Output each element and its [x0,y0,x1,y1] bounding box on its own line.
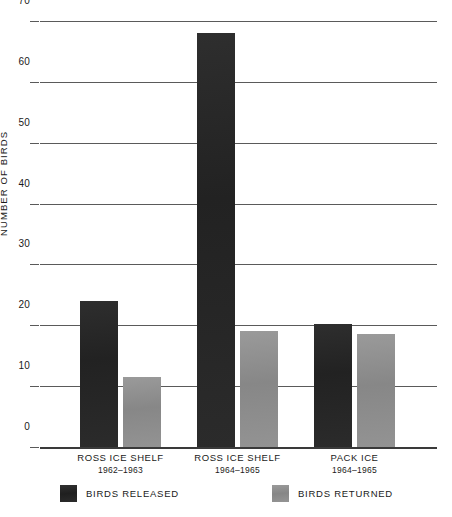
y-tick-label-10: 10 [18,360,30,371]
legend-swatch-released-icon [60,485,77,502]
bar-returned-ross-ice-shelf-1964-1965 [240,331,278,447]
y-axis-tick-labels: 70 60 50 40 30 20 10 0 [0,0,30,426]
x-category-years: 1964–1965 [177,464,298,476]
gridline-70 [40,21,437,22]
y-tick-mark-20 [30,325,39,326]
x-category-years: 1962–1963 [60,464,181,476]
legend-label-released: BIRDS RELEASED [86,488,179,499]
bar-chart: NUMBER OF BIRDS 70 60 50 40 30 20 10 0 [0,0,452,517]
y-tick-mark-40 [30,204,39,205]
bar-released-pack-ice-1964-1965 [314,324,352,447]
y-tick-label-40: 40 [18,177,30,188]
y-tick-mark-30 [30,264,39,265]
legend-swatch-returned-icon [272,485,289,502]
y-tick-label-70: 70 [18,0,30,6]
x-category-years: 1964–1965 [294,464,415,476]
x-category-label: PACK ICE [330,452,378,463]
y-tick-mark-70 [30,21,39,22]
gridline-50 [40,143,437,144]
bar-returned-ross-ice-shelf-1962-1963 [123,377,161,447]
x-category-label: ROSS ICE SHELF [77,452,163,463]
x-category-ross-ice-shelf-1962-1963: ROSS ICE SHELF 1962–1963 [60,452,181,476]
y-tick-mark-0 [30,447,39,448]
y-tick-label-30: 30 [18,238,30,249]
y-tick-label-0: 0 [24,421,30,432]
legend-label-returned: BIRDS RETURNED [298,488,393,499]
legend-item-birds-released: BIRDS RELEASED [60,485,179,502]
axis-baseline [40,447,437,449]
y-tick-mark-10 [30,386,39,387]
y-tick-label-60: 60 [18,55,30,66]
plot-area: ROSS ICE SHELF 1962–1963 ROSS ICE SHELF … [40,21,437,447]
y-tick-mark-60 [30,82,39,83]
bar-released-ross-ice-shelf-1962-1963 [80,301,118,447]
y-tick-mark-50 [30,143,39,144]
y-tick-label-20: 20 [18,299,30,310]
x-category-ross-ice-shelf-1964-1965: ROSS ICE SHELF 1964–1965 [177,452,298,476]
x-category-label: ROSS ICE SHELF [194,452,280,463]
gridline-60 [40,82,437,83]
bar-returned-pack-ice-1964-1965 [357,334,395,447]
gridline-30 [40,264,437,265]
bar-released-ross-ice-shelf-1964-1965 [197,33,235,447]
legend-item-birds-returned: BIRDS RETURNED [272,485,393,502]
chart-legend: BIRDS RELEASED BIRDS RETURNED [0,483,452,509]
x-category-pack-ice-1964-1965: PACK ICE 1964–1965 [294,452,415,476]
y-tick-label-50: 50 [18,116,30,127]
gridline-40 [40,204,437,205]
